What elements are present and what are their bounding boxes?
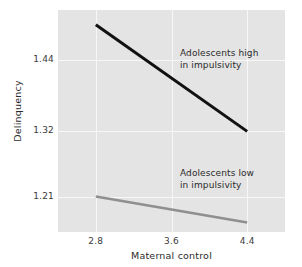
y-tick-label-1-21: 1.21: [24, 191, 54, 201]
x-tick-label-2-8: 2.8: [76, 236, 116, 246]
series-line-low-impulsivity: [96, 196, 247, 222]
chart-figure: Adolescents highin impulsivity Adolescen…: [0, 0, 302, 267]
x-axis-title: Maternal control: [58, 250, 285, 261]
y-tick-label-1-32: 1.32: [24, 125, 54, 135]
annotation-low-line1: Adolescents low: [180, 168, 254, 178]
annotation-high-impulsivity: Adolescents highin impulsivity: [180, 48, 258, 71]
series-lines: [58, 10, 285, 232]
series-line-high-impulsivity: [96, 25, 247, 132]
annotation-low-line2: in impulsivity: [180, 180, 242, 190]
annotation-high-line2: in impulsivity: [180, 60, 242, 70]
x-tick-label-4-4: 4.4: [227, 236, 267, 246]
annotation-low-impulsivity: Adolescents lowin impulsivity: [180, 168, 254, 191]
y-axis-title: Delinquency: [12, 56, 23, 166]
annotation-high-line1: Adolescents high: [180, 48, 258, 58]
y-tick-label-1-44: 1.44: [24, 54, 54, 64]
x-tick-label-3-6: 3.6: [152, 236, 192, 246]
plot-area: Adolescents highin impulsivity Adolescen…: [58, 10, 285, 232]
